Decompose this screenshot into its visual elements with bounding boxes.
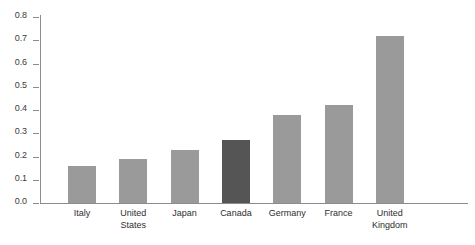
y-axis-tick-label: 0.0: [15, 196, 27, 206]
y-axis-tick-mark: [33, 17, 39, 18]
bar[interactable]: [273, 115, 301, 203]
bar[interactable]: [222, 140, 250, 203]
y-axis-tick-label: 0.8: [15, 10, 27, 20]
y-axis-tick-mark: [33, 133, 39, 134]
bar[interactable]: [171, 150, 199, 203]
y-axis-tick-mark: [33, 110, 39, 111]
y-axis-tick-mark: [33, 203, 39, 204]
y-axis-tick-label: 0.1: [15, 173, 27, 183]
y-axis-tick-label: 0.5: [15, 80, 27, 90]
y-axis-tick-mark: [33, 64, 39, 65]
bar-chart: 0.00.10.20.30.40.50.60.70.8 ItalyUnited …: [0, 0, 475, 245]
y-axis-tick-mark: [33, 40, 39, 41]
y-axis-tick-mark: [33, 180, 39, 181]
bar[interactable]: [68, 166, 96, 203]
x-axis-tick-label: United Kingdom: [352, 208, 428, 231]
y-axis-tick-label: 0.7: [15, 33, 27, 43]
y-axis-tick-label: 0.6: [15, 57, 27, 67]
plot-area: [40, 10, 468, 203]
bar[interactable]: [119, 159, 147, 203]
y-axis-tick-label: 0.3: [15, 126, 27, 136]
bar[interactable]: [376, 36, 404, 203]
y-axis-tick-label: 0.4: [15, 103, 27, 113]
y-axis-tick-label: 0.2: [15, 150, 27, 160]
y-axis-tick-mark: [33, 87, 39, 88]
x-axis-line: [40, 203, 468, 204]
bar[interactable]: [325, 105, 353, 203]
y-axis-tick-mark: [33, 157, 39, 158]
